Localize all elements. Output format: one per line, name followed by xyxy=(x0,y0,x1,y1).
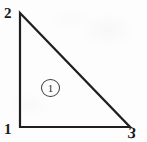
element-diagram-canvas: 2 1 3 1 xyxy=(0,0,147,142)
vertex-label-node-2: 2 xyxy=(4,6,12,21)
triangle-polygon xyxy=(20,13,130,127)
vertex-label-node-1: 1 xyxy=(4,122,12,137)
triangle-element-outline xyxy=(0,0,147,142)
element-number-text: 1 xyxy=(48,83,54,94)
element-number-badge: 1 xyxy=(41,79,60,97)
